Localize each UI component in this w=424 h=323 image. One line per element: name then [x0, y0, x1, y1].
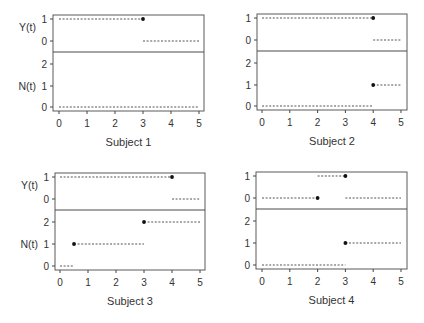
y-axis-label-Y: Y(t): [19, 21, 36, 33]
subject-label: Subject 1: [106, 136, 152, 148]
y-tick-label: 1: [41, 81, 47, 92]
plot-frame: [55, 173, 205, 270]
x-tick-label: 3: [140, 118, 146, 129]
y-tick-label: 1: [244, 171, 250, 182]
x-tick-label: 3: [343, 117, 349, 128]
N-event-point: [344, 241, 348, 245]
x-tick-label: 5: [197, 277, 203, 288]
y-axis-label-N: N(t): [21, 238, 39, 250]
y-tick-label: 0: [43, 261, 49, 272]
y-tick-label: 2: [245, 58, 251, 69]
y-tick-label: 0: [41, 36, 47, 47]
N-event-point: [72, 242, 76, 246]
x-tick-label: 0: [56, 118, 62, 129]
x-tick-label: 0: [259, 276, 265, 287]
x-tick-label: 4: [370, 117, 376, 128]
subject-label: Subject 3: [107, 295, 153, 307]
y-tick-label: 0: [244, 260, 250, 271]
plot-frame: [256, 172, 407, 269]
Y-event-point: [344, 174, 348, 178]
x-tick-label: 5: [398, 276, 404, 287]
y-tick-label: 2: [43, 217, 49, 228]
Y-event-point: [141, 17, 145, 21]
subject-label: Subject 2: [309, 135, 355, 147]
x-tick-label: 2: [315, 117, 321, 128]
x-tick-label: 5: [398, 117, 404, 128]
y-tick-label: 0: [245, 101, 251, 112]
survival-process-chart-grid: 10210Y(t)N(t)012345Subject 110210012345S…: [0, 0, 424, 323]
x-tick-label: 3: [141, 277, 147, 288]
Y-event-point: [316, 196, 320, 200]
x-tick-label: 3: [343, 276, 349, 287]
x-tick-label: 1: [287, 276, 293, 287]
plot-frame: [257, 14, 407, 110]
N-event-point: [142, 220, 146, 224]
x-tick-label: 4: [168, 118, 174, 129]
y-tick-label: 0: [43, 194, 49, 205]
y-tick-label: 1: [245, 80, 251, 91]
y-axis-label-Y: Y(t): [21, 179, 38, 191]
y-tick-label: 2: [244, 216, 250, 227]
y-tick-label: 1: [244, 238, 250, 249]
y-tick-label: 2: [41, 59, 47, 70]
y-tick-label: 0: [245, 35, 251, 46]
y-tick-label: 1: [245, 13, 251, 24]
x-tick-label: 1: [287, 117, 293, 128]
y-tick-label: 1: [41, 14, 47, 25]
y-tick-label: 0: [244, 193, 250, 204]
x-tick-label: 4: [370, 276, 376, 287]
subject-panel-1: 10210Y(t)N(t)012345Subject 1: [19, 14, 205, 149]
x-tick-label: 2: [112, 118, 118, 129]
subject-panel-4: 10210012345Subject 4: [244, 171, 407, 307]
y-tick-label: 1: [43, 172, 49, 183]
y-tick-label: 0: [41, 102, 47, 113]
Y-event-point: [170, 175, 174, 179]
y-tick-label: 1: [43, 239, 49, 250]
x-tick-label: 4: [169, 277, 175, 288]
x-tick-label: 0: [57, 277, 63, 288]
subject-label: Subject 4: [309, 294, 355, 306]
x-tick-label: 2: [315, 276, 321, 287]
plot-frame: [53, 15, 204, 111]
y-axis-label-N: N(t): [19, 80, 37, 92]
subject-panel-3: 10210Y(t)N(t)012345Subject 3: [21, 172, 206, 308]
x-tick-label: 1: [84, 118, 90, 129]
subject-panel-2: 10210012345Subject 2: [245, 13, 407, 148]
Y-event-point: [371, 16, 375, 20]
x-tick-label: 2: [113, 277, 119, 288]
x-tick-label: 0: [259, 117, 265, 128]
N-event-point: [371, 83, 375, 87]
x-tick-label: 1: [85, 277, 91, 288]
x-tick-label: 5: [196, 118, 202, 129]
